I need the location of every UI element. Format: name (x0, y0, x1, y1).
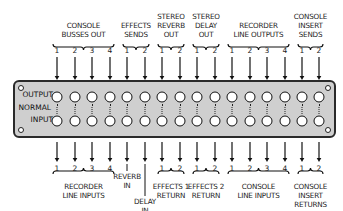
channel-number: 1 (300, 47, 305, 55)
output-jack (210, 92, 221, 103)
output-jack (157, 92, 168, 103)
normal-row-label: NORMAL (15, 103, 51, 112)
top-group-label: STEREO REVERB OUT (157, 12, 185, 39)
channel-number: 1 (160, 47, 165, 55)
normal-link (267, 104, 268, 114)
bottom-group-label: EFFECTS 1 RETURN (153, 182, 189, 200)
input-jack (297, 116, 308, 127)
channel-number: 1 (195, 165, 200, 173)
input-jack (314, 116, 325, 127)
bottom-group-label: REVERB IN (113, 172, 141, 190)
screw-icon (18, 127, 24, 133)
input-jack (52, 116, 63, 127)
output-jack (52, 92, 63, 103)
normal-link (232, 104, 233, 114)
normal-link (180, 104, 181, 114)
normal-link (285, 104, 286, 114)
output-jack (227, 92, 238, 103)
input-jack (210, 116, 221, 127)
channel-number: 2 (317, 165, 322, 173)
channel-number: 1 (195, 47, 200, 55)
normal-link (197, 104, 198, 114)
output-jack (314, 92, 325, 103)
input-row-label: INPUT (17, 115, 53, 124)
bottom-group-label: CONSOLE LINE INPUTS (237, 182, 279, 200)
normal-link (57, 104, 58, 114)
output-jack (262, 92, 273, 103)
channel-number: 4 (108, 47, 113, 55)
channel-number: 1 (230, 47, 235, 55)
channel-number: 1 (55, 165, 60, 173)
channel-number: 1 (125, 47, 130, 55)
screw-icon (325, 85, 331, 91)
input-jack (245, 116, 256, 127)
input-jack (157, 116, 168, 127)
input-jack (280, 116, 291, 127)
channel-number: 3 (265, 47, 270, 55)
output-jack (122, 92, 133, 103)
output-jack (245, 92, 256, 103)
output-jack (297, 92, 308, 103)
output-jack (280, 92, 291, 103)
channel-number: 2 (143, 47, 148, 55)
channel-number: 2 (178, 165, 183, 173)
normal-link (75, 104, 76, 114)
output-jack (175, 92, 186, 103)
patchbay-panel: OUTPUT NORMAL INPUT (13, 80, 336, 138)
output-jack (140, 92, 151, 103)
bottom-group-label: EFFECTS 2 RETURN (188, 182, 224, 200)
normal-link (110, 104, 111, 114)
channel-number: 2 (213, 165, 218, 173)
channel-number: 2 (178, 47, 183, 55)
channel-number: 1 (300, 165, 305, 173)
channel-number: 3 (90, 47, 95, 55)
channel-number: 2 (248, 47, 253, 55)
input-jack (192, 116, 203, 127)
normal-link (162, 104, 163, 114)
normal-link (302, 104, 303, 114)
output-jack (105, 92, 116, 103)
output-jack (70, 92, 81, 103)
channel-number: 1 (160, 165, 165, 173)
input-jack (122, 116, 133, 127)
output-row-label: OUTPUT (17, 90, 53, 99)
channel-number: 4 (283, 47, 288, 55)
top-group-label: CONSOLE BUSSES OUT (61, 21, 105, 39)
output-jack (192, 92, 203, 103)
input-jack (105, 116, 116, 127)
channel-number: 1 (55, 47, 60, 55)
top-group-label: CONSOLE INSERT SENDS (294, 12, 327, 39)
output-jack (87, 92, 98, 103)
bottom-group-label: RECORDER LINE INPUTS (62, 182, 104, 200)
input-jack (70, 116, 81, 127)
normal-link (215, 104, 216, 114)
top-group-label: RECORDER LINE OUTPUTS (234, 21, 284, 39)
channel-number: 1 (230, 165, 235, 173)
normal-link (127, 104, 128, 114)
channel-number: 3 (90, 165, 95, 173)
channel-number: 4 (108, 165, 113, 173)
channel-number: 2 (213, 47, 218, 55)
channel-number: 2 (73, 47, 78, 55)
channel-number: 2 (248, 165, 253, 173)
bottom-group-label: CONSOLE INSERT RETURNS (294, 182, 327, 209)
channel-number: 2 (317, 47, 322, 55)
normal-link (92, 104, 93, 114)
input-jack (262, 116, 273, 127)
input-jack (175, 116, 186, 127)
channel-number: 2 (73, 165, 78, 173)
screw-icon (325, 127, 331, 133)
top-group-label: STEREO DELAY OUT (192, 12, 220, 39)
input-jack (140, 116, 151, 127)
input-jack (227, 116, 238, 127)
channel-number: 4 (283, 165, 288, 173)
channel-number: 3 (265, 165, 270, 173)
top-group-label: EFFECTS SENDS (121, 21, 151, 39)
normal-link (319, 104, 320, 114)
input-jack (87, 116, 98, 127)
normal-link (250, 104, 251, 114)
normal-link (145, 104, 146, 114)
